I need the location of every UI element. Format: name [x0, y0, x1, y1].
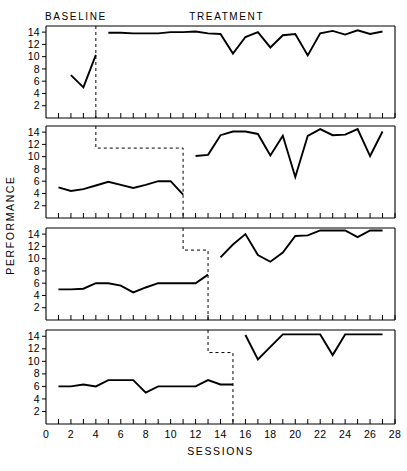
phase-change-line-2	[96, 126, 183, 218]
phase-header-treatment: TREATMENT	[189, 11, 264, 22]
y-tick-label-3-8: 8	[34, 265, 40, 277]
data-line-treatment-4	[245, 334, 382, 359]
y-tick-label-3-14: 14	[28, 228, 40, 240]
panel-2	[42, 126, 395, 218]
y-axis-title: PERFORMANCE	[4, 175, 16, 274]
data-line-treatment-2	[196, 129, 383, 177]
phase-header-baseline: BASELINE	[45, 11, 107, 22]
y-tick-label-3-2: 2	[34, 301, 40, 313]
x-tick-label-6: 6	[118, 428, 124, 440]
y-tick-label-1-12: 12	[28, 38, 40, 50]
y-tick-label-1-2: 2	[34, 99, 40, 111]
phase-change-line-4	[208, 330, 233, 424]
data-line-baseline-4	[58, 380, 233, 393]
y-tick-label-4-2: 2	[34, 405, 40, 417]
x-tick-label-24: 24	[339, 428, 351, 440]
y-tick-label-3-4: 4	[34, 289, 40, 301]
y-tick-label-2-6: 6	[34, 175, 40, 187]
x-tick-label-20: 20	[289, 428, 301, 440]
x-tick-label-10: 10	[165, 428, 177, 440]
data-line-baseline-2	[58, 181, 183, 194]
y-tick-label-1-4: 4	[34, 87, 40, 99]
x-tick-label-2: 2	[68, 428, 74, 440]
data-line-treatment-1	[108, 30, 382, 55]
data-line-treatment-3	[221, 230, 383, 261]
panel-1	[42, 26, 395, 118]
x-tick-label-8: 8	[143, 428, 149, 440]
x-tick-label-4: 4	[93, 428, 99, 440]
x-tick-label-12: 12	[189, 428, 201, 440]
chart-canvas: BASELINETREATMENT24681012142468101214246…	[0, 0, 407, 471]
x-tick-label-26: 26	[364, 428, 376, 440]
y-tick-label-3-10: 10	[28, 252, 40, 264]
y-tick-label-1-8: 8	[34, 63, 40, 75]
panel-4	[42, 330, 395, 424]
y-tick-label-2-10: 10	[28, 150, 40, 162]
x-tick-label-16: 16	[239, 428, 251, 440]
multiple-baseline-chart: BASELINETREATMENT24681012142468101214246…	[0, 0, 407, 471]
x-tick-label-14: 14	[214, 428, 226, 440]
y-tick-label-3-6: 6	[34, 277, 40, 289]
x-axis-title: SESSIONS	[187, 445, 253, 457]
y-tick-label-4-6: 6	[34, 380, 40, 392]
y-tick-label-1-10: 10	[28, 50, 40, 62]
y-tick-label-4-14: 14	[28, 330, 40, 342]
data-line-baseline-1	[71, 55, 96, 88]
x-tick-label-28: 28	[389, 428, 401, 440]
x-tick-label-22: 22	[314, 428, 326, 440]
x-tick-label-18: 18	[264, 428, 276, 440]
phase-change-line-3	[183, 228, 208, 320]
y-tick-label-1-14: 14	[28, 26, 40, 38]
y-tick-label-2-8: 8	[34, 163, 40, 175]
y-tick-label-3-12: 12	[28, 240, 40, 252]
panel-3	[42, 228, 395, 320]
y-tick-label-2-14: 14	[28, 126, 40, 138]
y-tick-label-2-12: 12	[28, 138, 40, 150]
y-tick-label-4-10: 10	[28, 355, 40, 367]
data-line-baseline-3	[58, 275, 208, 293]
x-tick-label-0: 0	[43, 428, 49, 440]
y-tick-label-4-4: 4	[34, 393, 40, 405]
y-tick-label-2-4: 4	[34, 187, 40, 199]
y-tick-label-1-6: 6	[34, 75, 40, 87]
y-tick-label-4-8: 8	[34, 367, 40, 379]
y-tick-label-2-2: 2	[34, 199, 40, 211]
y-tick-label-4-12: 12	[28, 342, 40, 354]
